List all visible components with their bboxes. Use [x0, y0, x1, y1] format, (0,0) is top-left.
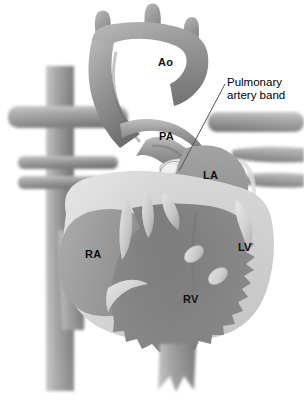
figure-root: Pulmonary artery band Ao PA LA RA LV RV: [0, 0, 304, 415]
heart-anatomy-illustration: [0, 0, 304, 415]
vignette: [0, 0, 304, 415]
